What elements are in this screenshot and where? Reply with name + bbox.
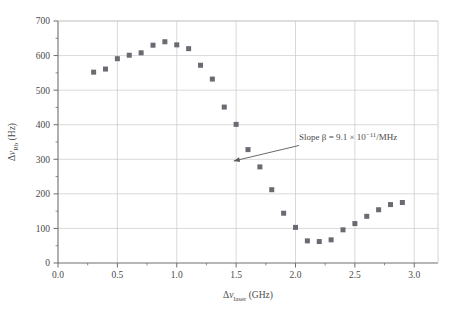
x-tick-label: 0.0 [52, 270, 64, 280]
data-point-marker [293, 225, 298, 230]
annotation-trail: /MHz [376, 132, 397, 142]
data-point-marker [222, 105, 227, 110]
svg-text:ΔνRb (Hz): ΔνRb (Hz) [7, 123, 19, 161]
data-point-marker [151, 43, 156, 48]
y-tick-label: 200 [36, 189, 51, 199]
x-tick-label: 3.0 [408, 270, 420, 280]
scatter-plot: 0.00.51.01.52.02.53.0 010020030040050060… [0, 0, 456, 310]
x-axis-subscript: laser [233, 295, 247, 302]
data-point-marker [210, 77, 215, 82]
data-point-marker [91, 70, 96, 75]
data-point-marker [246, 147, 251, 152]
data-point-marker [186, 46, 191, 51]
x-tick-label: 2.0 [290, 270, 302, 280]
y-tick-label: 700 [36, 16, 51, 26]
slope-annotation-text: Slope β = 9.1 × 10−11/MHz [299, 131, 397, 142]
x-tick-label: 1.5 [230, 270, 242, 280]
x-axis-unit: (GHz) [246, 290, 273, 301]
data-point-marker [317, 239, 322, 244]
y-tick-label: 400 [36, 120, 51, 130]
figure-container: 0.00.51.01.52.02.53.0 010020030040050060… [0, 0, 456, 310]
data-point-marker [127, 53, 132, 58]
data-point-marker [364, 214, 369, 219]
data-point-marker [329, 237, 334, 242]
y-axis-unit: (Hz) [7, 123, 18, 143]
y-axis-title: ΔνRb (Hz) [7, 123, 19, 161]
data-point-marker [162, 39, 167, 44]
data-point-marker [341, 227, 346, 232]
annotation-exponent: −11 [366, 131, 376, 138]
annotation-lead: Slope β = 9.1 × 10 [299, 132, 366, 142]
y-tick-label: 100 [36, 224, 51, 234]
data-point-marker [400, 200, 405, 205]
data-point-marker [198, 63, 203, 68]
y-tick-label: 600 [36, 51, 51, 61]
x-tick-label: 2.5 [349, 270, 361, 280]
data-point-marker [269, 187, 274, 192]
x-axis-title: Δνlaser (GHz) [223, 290, 273, 302]
data-point-marker [115, 56, 120, 61]
data-point-marker [234, 122, 239, 127]
data-point-marker [103, 67, 108, 72]
y-tick-label: 300 [36, 155, 51, 165]
data-point-marker [139, 50, 144, 55]
data-point-marker [281, 211, 286, 216]
data-point-marker [305, 238, 310, 243]
data-point-marker [388, 202, 393, 207]
data-point-marker [352, 221, 357, 226]
data-point-marker [376, 207, 381, 212]
x-tick-label: 0.5 [111, 270, 123, 280]
data-point-marker [257, 164, 262, 169]
y-tick-label: 500 [36, 86, 51, 96]
data-point-marker [174, 42, 179, 47]
y-tick-label: 0 [45, 258, 50, 268]
svg-text:Δνlaser (GHz): Δνlaser (GHz) [223, 290, 273, 302]
x-tick-label: 1.0 [171, 270, 183, 280]
